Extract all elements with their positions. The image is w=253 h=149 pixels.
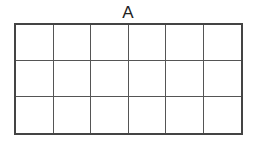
grid-cell bbox=[166, 97, 204, 133]
grid-cell bbox=[16, 97, 54, 133]
grid-cell bbox=[16, 25, 54, 61]
grid-cell bbox=[91, 61, 129, 97]
grid-cell bbox=[54, 61, 92, 97]
grid-cell bbox=[91, 25, 129, 61]
grid-cell bbox=[129, 25, 167, 61]
grid-cell bbox=[129, 61, 167, 97]
grid-cell bbox=[129, 97, 167, 133]
grid-cell bbox=[204, 97, 242, 133]
grid-cell bbox=[16, 61, 54, 97]
grid-cell bbox=[204, 61, 242, 97]
grid-cell bbox=[204, 25, 242, 61]
grid-cell bbox=[54, 97, 92, 133]
grid-cell bbox=[166, 25, 204, 61]
grid-label: A bbox=[0, 4, 253, 21]
rectangle-grid bbox=[14, 23, 243, 135]
grid-cell bbox=[54, 25, 92, 61]
grid-cell bbox=[166, 61, 204, 97]
grid-cell bbox=[91, 97, 129, 133]
